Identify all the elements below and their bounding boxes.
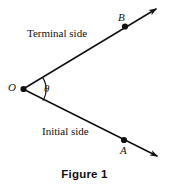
point-label-a: A bbox=[120, 145, 127, 156]
point-a-dot bbox=[121, 137, 127, 143]
terminal-side-label: Terminal side bbox=[27, 28, 87, 39]
theta-angle-label: θ bbox=[44, 83, 49, 94]
figure-1-angle-diagram: O B A Terminal side Initial side θ Figur… bbox=[0, 0, 169, 189]
terminal-side-ray bbox=[24, 9, 156, 89]
vertex-point-o bbox=[20, 86, 26, 92]
initial-side-label: Initial side bbox=[42, 126, 89, 137]
point-label-b: B bbox=[118, 12, 125, 23]
vertex-label-o: O bbox=[8, 82, 16, 93]
figure-caption: Figure 1 bbox=[0, 168, 169, 180]
point-b-dot bbox=[122, 23, 128, 29]
